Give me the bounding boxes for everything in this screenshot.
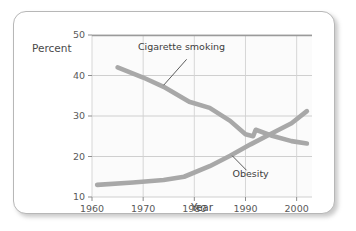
screenshot-root: 1020304050 19601970198019902000 Percent …: [0, 0, 356, 231]
chart-card: 1020304050 19601970198019902000 Percent …: [13, 11, 335, 214]
y-tick-label-50: 50: [73, 29, 85, 40]
y-tick-label-20: 20: [73, 151, 85, 162]
series-annotation-cigarette-smoking: Cigarette smoking: [138, 41, 225, 52]
y-tick-label-10: 10: [73, 191, 85, 202]
y-tick-label-40: 40: [73, 70, 85, 81]
y-tick-label-30: 30: [73, 110, 85, 121]
x-axis-title: Year: [190, 201, 214, 213]
line-chart: 1020304050 19601970198019902000 Percent …: [14, 12, 336, 215]
x-tick-label-1990: 1990: [233, 203, 257, 214]
series-annotation-obesity: Obesity: [232, 168, 269, 179]
x-tick-label-1970: 1970: [131, 203, 155, 214]
x-tick-label-1960: 1960: [80, 203, 104, 214]
y-axis-title: Percent: [32, 42, 72, 54]
x-tick-label-2000: 2000: [285, 203, 309, 214]
y-axis-ticks: [88, 35, 92, 197]
y-axis-tick-labels: 1020304050: [73, 29, 85, 202]
